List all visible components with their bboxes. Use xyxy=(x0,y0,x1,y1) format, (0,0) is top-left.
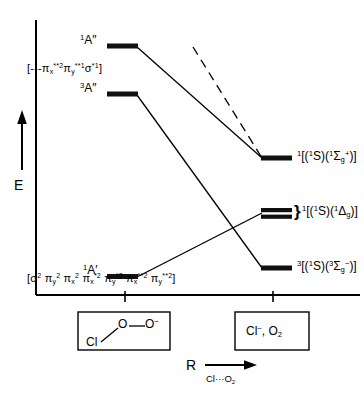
state-label-3SigmaG: 3[(1S)(3Σg−)] xyxy=(297,260,357,272)
reactant-atom-o2: O− xyxy=(145,318,159,330)
x-axis-label: R xyxy=(186,358,196,372)
reaction-coordinate-arrow xyxy=(205,360,257,370)
level-bar-1DeltaG-upper xyxy=(261,208,292,212)
configuration-ground: [σ2 πy2 πx2 πx*2 πy*2 πx**2 πy**2] xyxy=(27,273,176,284)
level-bar-1DeltaG-lower xyxy=(261,215,292,219)
dashed-correlation-line xyxy=(193,47,262,158)
reactant-atom-o1: O xyxy=(118,318,127,330)
state-label-1App: 1A″ xyxy=(80,34,97,46)
state-label-1DeltaG: 1[(1S)(1Δg)] xyxy=(302,205,358,217)
state-correlation-diagram: 1A″ 3A″ 1A′ [---πx**2πy**1σ*1] [σ2 πy2 π… xyxy=(0,0,364,394)
state-label-1SigmaG: 1[(1S)(1Σg+)] xyxy=(297,150,357,162)
configuration-excited: [---πx**2πy**1σ*1] xyxy=(27,63,102,74)
bond-cl-o xyxy=(101,328,118,342)
diagram-canvas xyxy=(0,0,364,394)
level-bar-3App xyxy=(107,92,138,97)
level-bar-1SigmaG xyxy=(261,156,292,161)
state-label-3App: 3A″ xyxy=(80,82,97,94)
x-axis-sublabel: Cl···O2 xyxy=(206,374,235,384)
correlation-line-1Ap-to-1DeltaG xyxy=(137,213,262,277)
reactant-atom-cl: Cl xyxy=(86,336,97,348)
left-levels xyxy=(107,44,138,280)
energy-axis-arrow xyxy=(17,110,27,170)
level-group-brace: } xyxy=(294,203,301,220)
level-bar-3SigmaG xyxy=(261,266,292,271)
y-axis-label: E xyxy=(14,178,23,192)
correlation-line-3App-to-3SigmaG xyxy=(137,95,262,268)
correlation-line-1App-to-1SigmaG xyxy=(137,47,262,158)
product-formula: Cl−, O2 xyxy=(246,325,282,337)
correlation-lines xyxy=(137,47,262,277)
level-bar-1App xyxy=(107,44,138,49)
right-levels xyxy=(261,156,292,271)
